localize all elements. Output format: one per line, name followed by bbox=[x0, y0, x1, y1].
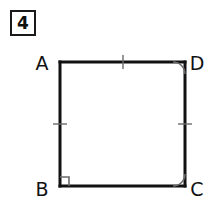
vertex-label-A: A bbox=[36, 52, 49, 74]
angle-arc-mark-C bbox=[173, 174, 185, 186]
vertex-label-C: C bbox=[190, 178, 203, 200]
vertex-label-B: B bbox=[35, 178, 48, 200]
square-geometry-figure: A D B C bbox=[0, 0, 210, 219]
angle-arc-mark-D bbox=[173, 62, 185, 74]
figure-page: 4 A D B C bbox=[0, 0, 210, 219]
vertex-label-D: D bbox=[190, 52, 205, 74]
